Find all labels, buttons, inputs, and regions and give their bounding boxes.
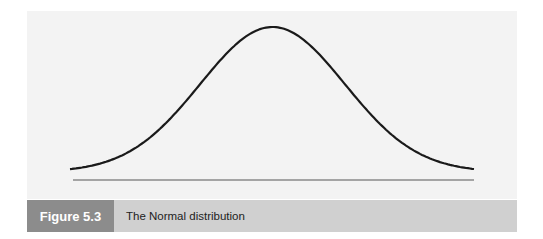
figure-caption: Figure 5.3 The Normal distribution: [27, 200, 517, 232]
figure-label: Figure 5.3: [27, 200, 114, 232]
normal-curve: [70, 27, 474, 169]
figure-title: The Normal distribution: [114, 200, 517, 232]
